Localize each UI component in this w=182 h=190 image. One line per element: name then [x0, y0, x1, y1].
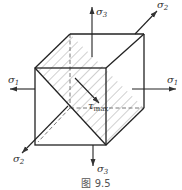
sigma1-left-label: σ1 [8, 74, 19, 87]
sigma2-bottom-label: σ2 [13, 153, 25, 166]
sigma3-top-label: σ3 [96, 6, 108, 19]
sigma2-bottom-arrow [22, 106, 68, 153]
stress-cube-diagram: σ3 σ2 σ1 σ1 σ2 σ3 τmax 图 9.5 [0, 0, 182, 190]
figure-caption: 图 9.5 [81, 178, 110, 189]
sigma2-top-label: σ2 [157, 0, 169, 12]
sigma1-right-label: σ1 [167, 74, 178, 87]
sigma2-top-arrow [135, 11, 157, 34]
sigma3-bottom-label: σ3 [97, 163, 109, 176]
